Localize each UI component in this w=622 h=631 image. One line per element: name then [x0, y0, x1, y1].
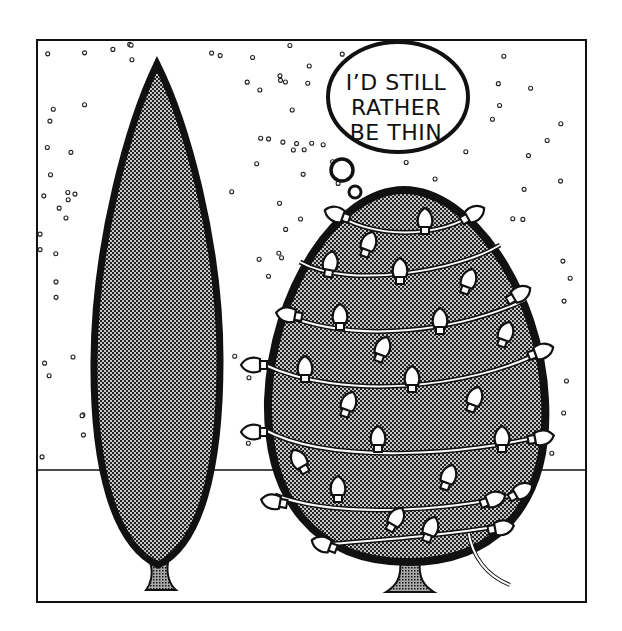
snow-dot	[564, 379, 568, 383]
snow-dot	[278, 78, 282, 82]
snow-dot	[521, 217, 525, 221]
snow-dot	[562, 411, 566, 415]
snow-dot	[464, 150, 468, 154]
snow-dot	[45, 146, 49, 150]
cartoon-panel	[0, 0, 622, 631]
snow-dot	[42, 194, 46, 198]
snow-dot	[266, 274, 270, 278]
snow-dot	[259, 136, 263, 140]
snow-dot	[340, 52, 344, 56]
snow-dot	[80, 414, 84, 418]
snow-dot	[251, 55, 255, 59]
snow-dot	[69, 150, 73, 154]
snow-dot	[545, 139, 549, 143]
snow-dot	[71, 355, 75, 359]
snow-dot	[38, 232, 42, 236]
thought-bubble-text: I’D STILL RATHER BE THIN	[336, 70, 456, 145]
snow-dot	[290, 108, 294, 112]
snow-dot	[284, 227, 288, 231]
snow-dot	[230, 190, 234, 194]
snow-dot	[48, 119, 52, 123]
snow-dot	[281, 140, 285, 144]
snow-dot	[218, 54, 222, 58]
snow-dot	[83, 103, 87, 107]
snow-dot	[280, 256, 284, 260]
snow-dot	[83, 51, 87, 55]
snow-dot	[522, 187, 526, 191]
snow-dot	[210, 51, 214, 55]
snow-dot	[255, 162, 259, 166]
snow-dot	[498, 103, 502, 107]
snow-dot	[47, 374, 51, 378]
snow-dot	[54, 280, 58, 284]
thought-line-2: RATHER	[336, 95, 456, 120]
snow-dot	[258, 88, 262, 92]
snow-dot	[288, 44, 292, 48]
snow-dot	[48, 173, 52, 177]
snow-dot	[43, 361, 47, 365]
snow-dot	[404, 161, 408, 165]
snow-dot	[267, 137, 271, 141]
snow-dot	[81, 433, 85, 437]
snow-dot	[496, 82, 500, 86]
snow-dot	[502, 54, 506, 58]
snow-dot	[129, 43, 133, 47]
snow-dot	[245, 80, 249, 84]
thought-bubble-dot-large	[331, 159, 353, 181]
snow-dot	[40, 455, 44, 459]
snow-dot	[51, 107, 55, 111]
snow-dot	[54, 295, 58, 299]
thought-bubble-dot-small	[349, 186, 361, 198]
snow-dot	[54, 252, 58, 256]
snow-dot	[433, 177, 437, 181]
snow-dot	[291, 148, 295, 152]
snow-dot	[302, 148, 306, 152]
snow-dot	[562, 299, 566, 303]
snow-dot	[559, 179, 563, 183]
snow-dot	[511, 217, 515, 221]
snow-dot	[278, 201, 282, 205]
snow-dot	[307, 64, 311, 68]
snow-dot	[301, 172, 305, 176]
snow-dot	[64, 216, 68, 220]
snow-dot	[559, 122, 563, 126]
snow-dot	[278, 74, 282, 78]
snow-dot	[561, 259, 565, 263]
snow-dot	[246, 441, 250, 445]
snow-dot	[38, 248, 42, 252]
snow-dot	[550, 451, 554, 455]
snow-dot	[247, 376, 251, 380]
snow-dot	[321, 143, 325, 147]
snow-dot	[295, 142, 299, 146]
snow-dot	[277, 251, 281, 255]
snow-dot	[66, 198, 70, 202]
thought-line-1: I’D STILL	[336, 70, 456, 95]
snow-dot	[257, 257, 261, 261]
snow-dot	[66, 190, 70, 194]
snow-dot	[233, 354, 237, 358]
snow-dot	[529, 86, 533, 90]
snow-dot	[57, 206, 61, 210]
snow-dot	[568, 276, 572, 280]
snow-dot	[111, 47, 115, 51]
snow-dot	[130, 58, 134, 62]
snow-dot	[490, 117, 494, 121]
snow-dot	[306, 81, 310, 85]
thought-line-3: BE THIN	[336, 120, 456, 145]
snow-dot	[73, 192, 77, 196]
snow-dot	[526, 154, 530, 158]
snow-dot	[46, 52, 50, 56]
snow-dot	[299, 217, 303, 221]
snow-dot	[283, 80, 287, 84]
snow-dot	[310, 141, 314, 145]
